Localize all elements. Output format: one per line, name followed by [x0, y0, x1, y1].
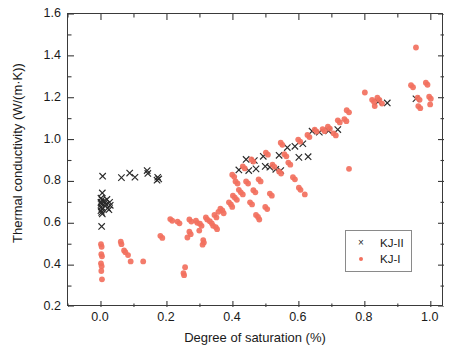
legend-item-kj-ii: ×KJ-II: [351, 235, 404, 251]
legend: ×KJ-IIKJ-I: [345, 230, 412, 272]
data-point: [159, 235, 165, 241]
data-point: [362, 90, 368, 96]
data-point: [384, 100, 390, 106]
data-point: [265, 152, 271, 158]
data-point: [128, 258, 134, 264]
data-point: [182, 264, 188, 270]
data-point: [98, 268, 104, 274]
data-point: [298, 187, 304, 193]
data-point: [292, 176, 298, 182]
data-point: [177, 220, 183, 226]
y-tick-label: 1.6: [27, 6, 61, 20]
data-point: [214, 215, 220, 221]
data-point: [200, 242, 206, 248]
data-point: [245, 181, 251, 187]
data-point: [343, 118, 349, 124]
data-point: [276, 152, 282, 158]
data-point: [235, 181, 241, 187]
data-point: [99, 244, 105, 250]
legend-item-kj-i: KJ-I: [351, 251, 404, 267]
data-point: [278, 171, 284, 177]
data-point: [243, 156, 249, 162]
data-point: [98, 223, 104, 229]
data-point: [346, 109, 352, 115]
data-point: [327, 126, 333, 132]
data-point: [99, 253, 105, 259]
x-axis-tick-labels: 0.00.20.40.60.81.0: [67, 310, 443, 330]
data-point: [99, 276, 105, 282]
data-point: [279, 142, 285, 148]
data-point: [181, 272, 187, 278]
data-point: [194, 220, 200, 226]
data-point: [252, 189, 258, 195]
data-point: [242, 166, 248, 172]
y-tick-label: 0.2: [27, 299, 61, 313]
data-point: [231, 174, 237, 180]
data-point: [132, 174, 138, 180]
x-tick-label: 0.6: [278, 310, 318, 324]
data-point: [185, 235, 191, 241]
data-point: [417, 97, 423, 103]
x-axis-title: Degree of saturation (%): [67, 330, 443, 345]
data-point: [214, 226, 220, 232]
data-point: [99, 190, 105, 196]
data-point: [410, 84, 416, 90]
data-point: [372, 103, 378, 109]
data-point: [283, 153, 289, 159]
y-tick-label: 1.2: [27, 90, 61, 104]
data-point: [204, 217, 210, 223]
data-point: [258, 179, 264, 185]
legend-label: KJ-II: [371, 237, 404, 249]
y-tick-label: 0.4: [27, 257, 61, 271]
x-tick-label: 0.4: [212, 310, 252, 324]
data-point: [253, 166, 259, 172]
data-point: [333, 132, 339, 138]
legend-label: KJ-I: [371, 253, 400, 265]
cross-marker-icon: ×: [351, 238, 371, 248]
data-point: [140, 258, 146, 264]
y-axis-tick-labels: 0.20.40.60.81.01.21.41.6: [25, 13, 61, 306]
scatter-plot-figure: Thermal conductivity (W/(m·K)) 0.20.40.6…: [0, 0, 452, 360]
y-tick-label: 1.4: [27, 48, 61, 62]
x-tick-label: 0.8: [344, 310, 384, 324]
data-point: [314, 129, 320, 135]
series-kj-ii: [98, 96, 419, 230]
data-point: [118, 174, 124, 180]
data-point: [99, 173, 105, 179]
data-point: [188, 219, 194, 225]
data-point: [240, 192, 246, 198]
data-point: [428, 96, 434, 102]
data-point: [221, 210, 227, 216]
data-point: [196, 228, 202, 234]
data-point: [249, 202, 255, 208]
y-tick-label: 0.6: [27, 215, 61, 229]
data-point: [250, 159, 256, 165]
data-point: [307, 134, 313, 140]
data-point: [297, 139, 303, 145]
data-point: [296, 154, 302, 160]
data-point: [427, 102, 433, 108]
data-point: [269, 193, 275, 199]
y-tick-label: 1.0: [27, 132, 61, 146]
data-point: [346, 166, 352, 172]
x-tick-label: 0.0: [80, 310, 120, 324]
data-point: [287, 162, 293, 168]
data-point: [125, 252, 131, 258]
data-point: [229, 204, 235, 210]
data-point: [425, 82, 431, 88]
data-point: [256, 217, 262, 223]
data-point: [379, 101, 385, 107]
data-point: [302, 192, 308, 198]
x-tick-label: 0.2: [146, 310, 186, 324]
data-point: [169, 218, 175, 224]
data-point: [119, 241, 125, 247]
data-point: [417, 105, 423, 111]
x-tick-label: 1.0: [410, 310, 450, 324]
data-point: [292, 143, 298, 149]
data-point: [126, 170, 132, 176]
data-point: [234, 197, 240, 203]
data-point: [264, 206, 270, 212]
data-point: [413, 45, 419, 51]
data-point: [305, 154, 311, 160]
data-point: [272, 164, 278, 170]
